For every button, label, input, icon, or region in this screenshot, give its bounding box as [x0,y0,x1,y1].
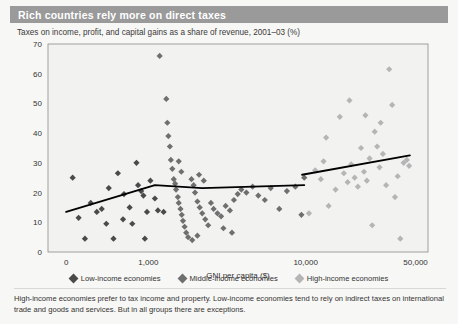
legend-diamond-icon [177,274,187,284]
legend-item-1: Middle-income economies [179,274,278,283]
legend-label: High-income economies [307,274,388,283]
legend-item-2: High-income economies [296,274,388,283]
y-tick-label: 50 [33,99,42,108]
legend-diamond-icon [68,274,78,284]
x-tick-label: 10,000 [293,258,318,267]
chart-legend: Low-income economiesMiddle-income econom… [0,274,458,283]
y-axis-tick-labels: 010203040506070 [33,40,42,257]
y-tick-label: 0 [38,248,43,257]
y-tick-label: 70 [33,40,42,49]
footnote-divider [14,288,446,289]
plot-background [48,44,428,252]
legend-label: Low-income economies [81,274,161,283]
legend-diamond-icon [294,274,304,284]
y-tick-label: 30 [33,159,42,168]
x-tick-label: 0 [64,258,69,267]
y-tick-label: 10 [33,218,42,227]
x-axis-tick-labels: 01,00010,00050,000 [64,258,428,267]
y-tick-label: 20 [33,189,42,198]
chart-footnote: High-income economies prefer to tax inco… [14,293,446,315]
legend-label: Middle-income economies [190,274,278,283]
y-tick-label: 60 [33,70,42,79]
legend-item-0: Low-income economies [70,274,161,283]
y-tick-label: 40 [33,129,42,138]
chart-figure: Rich countries rely more on direct taxes… [0,0,458,324]
x-tick-label: 50,000 [403,258,428,267]
x-tick-label: 1,000 [138,258,159,267]
plot-background-rect [48,44,428,252]
